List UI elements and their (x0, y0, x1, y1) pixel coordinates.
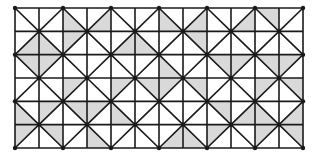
vertex-node (157, 6, 161, 10)
vertex-node (37, 76, 41, 80)
vertex-node (301, 6, 305, 10)
vertex-node (85, 76, 89, 80)
vertex-node (109, 99, 113, 103)
vertex-node (229, 76, 233, 80)
vertex-node (253, 146, 257, 150)
vertex-node (301, 52, 305, 56)
diagonal-line (39, 8, 63, 31)
vertex-node (205, 99, 209, 103)
vertex-node (109, 146, 113, 150)
diagonal-line (231, 31, 255, 54)
vertex-node (229, 122, 233, 126)
vertex-node (61, 146, 65, 150)
tiling-diagram (0, 0, 315, 156)
vertex-node (229, 29, 233, 33)
vertex-node (13, 52, 17, 56)
diagonal-line (111, 125, 135, 148)
diagonal-line (87, 55, 111, 78)
vertex-node (157, 52, 161, 56)
vertex-node (133, 29, 137, 33)
vertex-node (61, 52, 65, 56)
vertex-node (13, 99, 17, 103)
vertex-node (277, 29, 281, 33)
diagonal-line (159, 101, 183, 124)
vertex-node (109, 6, 113, 10)
diagonal-line (159, 31, 183, 54)
vertex-node (85, 29, 89, 33)
vertex-node (253, 99, 257, 103)
vertex-node (133, 76, 137, 80)
vertex-node (13, 146, 17, 150)
vertex-node (157, 146, 161, 150)
diagonal-line (183, 55, 207, 78)
vertex-node (253, 6, 257, 10)
vertex-node (157, 99, 161, 103)
vertex-node (181, 29, 185, 33)
diagonal-line (135, 101, 159, 124)
diagonal-line (207, 31, 231, 54)
diagonal-line (279, 31, 303, 54)
vertex-node (253, 52, 257, 56)
diagonal-line (87, 78, 111, 101)
diagonal-line (39, 78, 63, 101)
diagonal-line (111, 8, 135, 31)
vertex-node (61, 99, 65, 103)
diagonal-line (135, 125, 159, 148)
diagonal-line (111, 55, 135, 78)
vertex-node (85, 122, 89, 126)
vertex-node (181, 76, 185, 80)
vertex-node (37, 122, 41, 126)
diagonal-line (231, 125, 255, 148)
vertex-node (133, 122, 137, 126)
vertex-node (205, 52, 209, 56)
diagonal-line (135, 8, 159, 31)
vertex-node (61, 6, 65, 10)
vertex-node (205, 146, 209, 150)
vertex-node (205, 6, 209, 10)
vertex-node (37, 29, 41, 33)
diagonal-line (183, 101, 207, 124)
diagonal-line (63, 55, 87, 78)
diagonal-line (255, 31, 279, 54)
diagonal-line (135, 55, 159, 78)
diagonal-line (15, 8, 39, 31)
vertex-node (109, 52, 113, 56)
diagonal-line (207, 78, 231, 101)
vertex-node (13, 6, 17, 10)
vertex-node (277, 76, 281, 80)
grid-canvas (0, 0, 315, 156)
diagonal-line (279, 8, 303, 31)
vertex-node (181, 122, 185, 126)
diagonal-line (87, 31, 111, 54)
diagonal-line (63, 125, 87, 148)
diagonal-line (231, 78, 255, 101)
vertex-node (277, 122, 281, 126)
diagonal-line (207, 8, 231, 31)
diagonal-line (15, 78, 39, 101)
vertex-node (301, 146, 305, 150)
vertex-node (301, 99, 305, 103)
